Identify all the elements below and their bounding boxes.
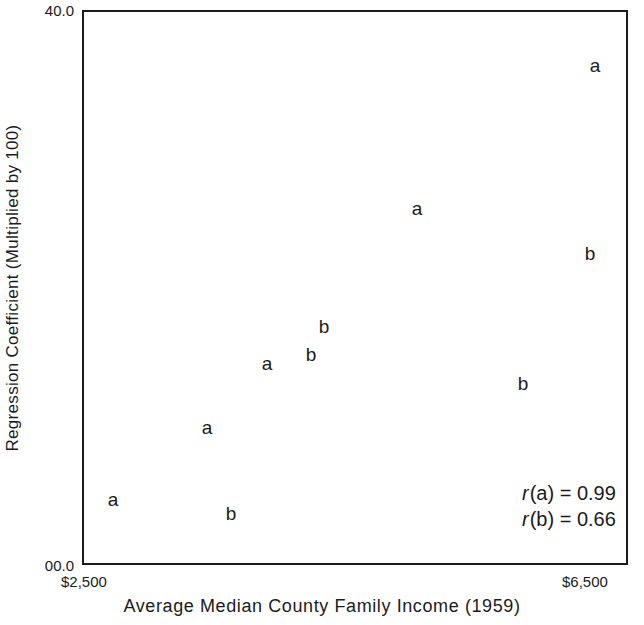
annotation-line-b: r(b) = 0.66	[522, 506, 616, 532]
x-axis-tick-label-right: $6,500	[562, 574, 608, 589]
point-b-4: b	[518, 374, 529, 393]
point-b-5: b	[226, 504, 237, 523]
point-a-5: a	[108, 490, 119, 509]
annotation-r-symbol-a: r	[522, 482, 530, 504]
point-a-4: a	[202, 418, 213, 437]
point-a-2: a	[412, 199, 423, 218]
y-axis-tick-label-bottom: 00.0	[36, 558, 74, 573]
scatter-plot-figure: Regression Coefficient (Multiplied by 10…	[0, 0, 644, 625]
annotation-value-a: (a) = 0.99	[530, 482, 616, 504]
annotation-value-b: (b) = 0.66	[530, 508, 616, 530]
point-a-1: a	[590, 56, 601, 75]
point-a-3: a	[262, 354, 273, 373]
point-b-2: b	[319, 317, 330, 336]
x-axis-tick-label-left: $2,500	[61, 574, 107, 589]
annotation-line-a: r(a) = 0.99	[522, 480, 616, 506]
y-axis-title: Regression Coefficient (Multiplied by 10…	[3, 124, 23, 451]
point-b-3: b	[306, 345, 317, 364]
correlation-annotations: r(a) = 0.99 r(b) = 0.66	[522, 480, 616, 532]
point-b-1: b	[585, 244, 596, 263]
plot-area: aaaaabbbbb r(a) = 0.99 r(b) = 0.66	[82, 10, 628, 565]
annotation-r-symbol-b: r	[522, 508, 530, 530]
y-axis-title-container: Regression Coefficient (Multiplied by 10…	[0, 10, 26, 565]
x-axis-title: Average Median County Family Income (195…	[0, 595, 644, 617]
y-axis-tick-label-top: 40.0	[36, 3, 74, 18]
